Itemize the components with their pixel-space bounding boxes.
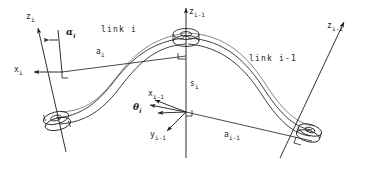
axis-a-i-minus-1 (186, 112, 312, 141)
label-link-i-minus-1: link i-1 (249, 55, 297, 63)
label-z-i-minus-1: zi-1 (189, 8, 205, 18)
label-a-i-minus-1: ai-1 (224, 131, 240, 141)
link-i-minus-1-body (188, 33, 314, 136)
right-angle-origin-i (62, 72, 68, 78)
label-alpha-i: αi (66, 28, 75, 39)
axis-z-i (38, 28, 66, 152)
label-x-i-minus-1: xi-1 (148, 90, 164, 100)
dh-parameters-diagram: zi αi xi ai link i zi-1 si xi-1 θi yi-1 … (0, 0, 367, 169)
alpha-i-angle-marker (49, 30, 62, 72)
label-z-i-minus-2: zi-2 (327, 22, 343, 32)
label-z-i: zi (26, 13, 35, 23)
axis-z-i-minus-2 (280, 22, 344, 158)
link-i-body (56, 33, 186, 124)
diagram-canvas (0, 0, 367, 169)
axis-y-i-minus-1 (167, 112, 186, 131)
label-link-i: link i (101, 26, 137, 34)
label-x-i: xi (14, 66, 23, 76)
label-s-i: si (190, 80, 199, 90)
label-a-i: ai (96, 48, 105, 58)
axis-x-i-minus-1 (150, 105, 186, 112)
label-y-i-minus-1: yi-1 (150, 131, 166, 141)
label-theta-i: θi (133, 103, 141, 114)
